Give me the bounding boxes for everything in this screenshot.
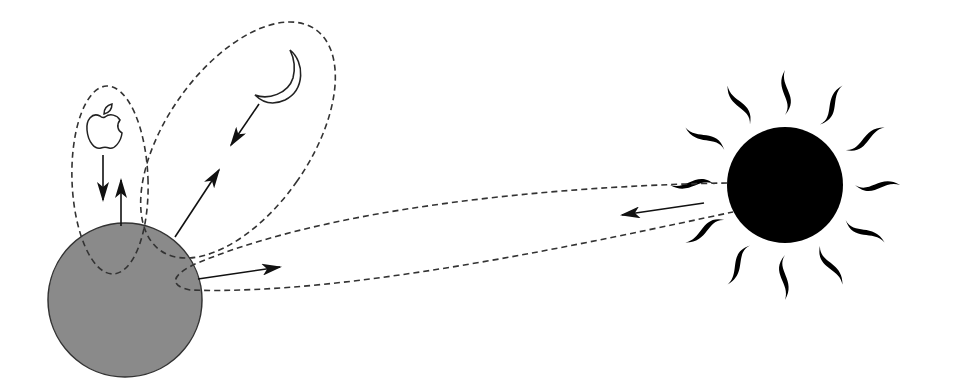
arrow-earth-to-sun bbox=[198, 267, 280, 279]
sun-interaction-boundary bbox=[176, 183, 733, 290]
sun bbox=[727, 127, 843, 243]
moon-icon bbox=[255, 50, 301, 103]
arrow-sun-to-earth bbox=[622, 203, 704, 215]
diagram-canvas bbox=[0, 0, 965, 390]
arrow-moon-to-earth bbox=[231, 104, 259, 145]
gravity-diagram: Earth Apple Moon Sun bbox=[0, 0, 965, 390]
apple-icon bbox=[87, 104, 122, 148]
earth bbox=[48, 223, 202, 377]
arrow-earth-to-moon bbox=[175, 170, 219, 237]
